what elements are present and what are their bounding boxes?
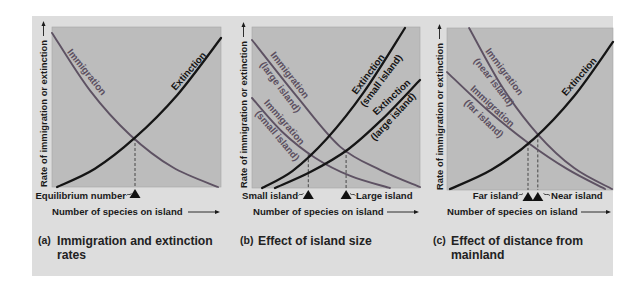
x-axis-label: Number of species on island	[253, 206, 384, 217]
y-axis-label: Rate of immigration or extinction	[434, 43, 445, 190]
x-axis-label: Number of species on island	[447, 206, 578, 217]
caption-line-2: mainland	[451, 248, 505, 262]
equilibrium-number-label: Equilibrium number	[35, 190, 126, 201]
x-axis-label: Number of species on island	[52, 206, 183, 217]
y-axis-label: Rate of immigration or extinction	[38, 40, 49, 187]
large-island-label: Large island	[356, 190, 413, 201]
caption-line-1: Effect of distance from	[451, 234, 583, 248]
caption-line-1: Immigration and extinction	[57, 234, 213, 248]
caption-letter: (c)	[433, 234, 446, 246]
near-island-label: Near island	[551, 190, 603, 201]
caption-line-2: rates	[57, 248, 86, 262]
far-island-label: Far island	[473, 190, 518, 201]
y-axis-label: Rate of immigration or extinction	[238, 41, 249, 188]
caption-letter: (b)	[240, 234, 253, 246]
caption-letter: (a)	[38, 234, 51, 246]
island-biogeography-figure: Immigration Extinction Rate of immigrati…	[0, 0, 644, 297]
caption-line-1: Effect of island size	[258, 234, 372, 248]
small-island-label: Small island	[242, 190, 298, 201]
